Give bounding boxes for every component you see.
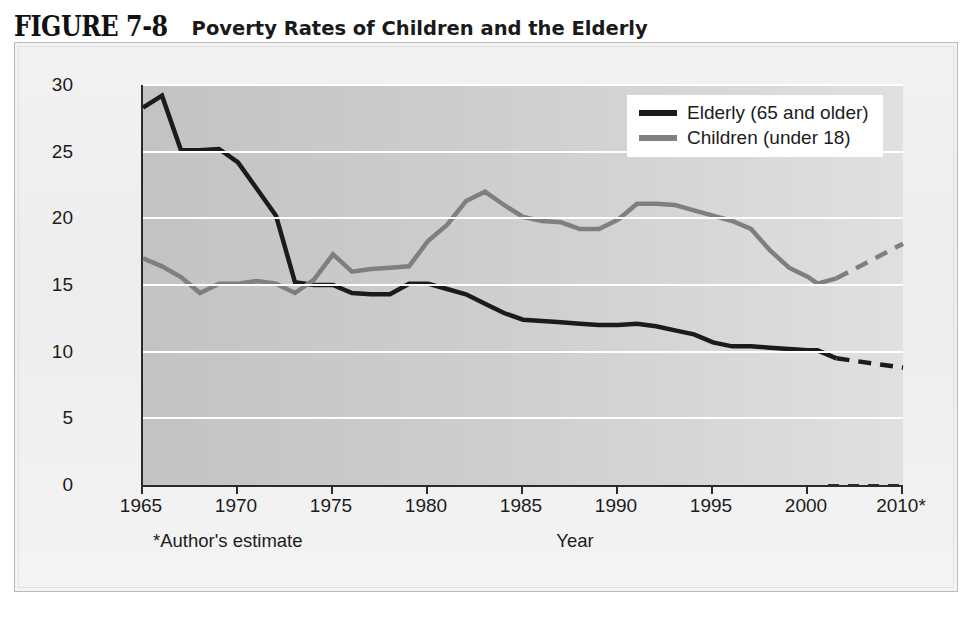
x-tick-label: 1970	[196, 495, 276, 517]
x-axis-dashed-segment	[828, 484, 901, 486]
x-tick-label: 1995	[671, 495, 751, 517]
gridline	[143, 84, 903, 86]
x-tick	[141, 485, 143, 494]
chart-legend: Elderly (65 and older)Children (under 18…	[627, 95, 883, 157]
chart-footnote: *Author's estimate	[153, 530, 303, 552]
gridline	[143, 351, 903, 353]
x-tick	[521, 485, 523, 494]
x-tick-label: 1980	[386, 495, 466, 517]
x-tick	[901, 485, 903, 494]
x-tick	[426, 485, 428, 494]
x-tick-label: 2010*	[861, 495, 941, 517]
series-line-elderly-projected	[837, 358, 904, 367]
x-tick	[331, 485, 333, 494]
y-tick-label: 30	[13, 74, 73, 96]
x-tick	[616, 485, 618, 494]
figure-panel: Percent of age groups Elderly (65 and ol…	[14, 42, 958, 592]
x-tick-label: 1985	[481, 495, 561, 517]
figure-title: FIGURE 7-8 Poverty Rates of Children and…	[14, 2, 960, 40]
line-chart: Percent of age groups Elderly (65 and ol…	[15, 43, 959, 593]
figure-number: FIGURE 7-8	[14, 13, 168, 40]
x-tick-label: 1990	[576, 495, 656, 517]
x-tick	[806, 485, 808, 494]
y-tick-label: 20	[13, 207, 73, 229]
series-line-children	[143, 192, 837, 293]
y-tick-label: 15	[13, 274, 73, 296]
y-tick-label: 5	[13, 407, 73, 429]
series-line-children-projected	[837, 244, 904, 279]
x-tick	[236, 485, 238, 494]
x-tick-label: 1975	[291, 495, 371, 517]
line-swatch-children	[639, 135, 677, 141]
x-tick-label: 1965	[101, 495, 181, 517]
legend-item: Children (under 18)	[639, 127, 869, 149]
y-tick-label: 0	[13, 474, 73, 496]
gridline	[143, 417, 903, 419]
legend-item: Elderly (65 and older)	[639, 102, 869, 124]
line-swatch-elderly	[639, 110, 677, 116]
figure-caption: Poverty Rates of Children and the Elderl…	[192, 18, 648, 40]
x-tick	[711, 485, 713, 494]
x-tick-label: 2000	[766, 495, 846, 517]
legend-label: Elderly (65 and older)	[687, 102, 869, 124]
gridline	[143, 284, 903, 286]
y-tick-label: 25	[13, 141, 73, 163]
gridline	[143, 217, 903, 219]
y-tick-label: 10	[13, 341, 73, 363]
x-axis-title: Year	[556, 530, 593, 552]
legend-label: Children (under 18)	[687, 127, 851, 149]
